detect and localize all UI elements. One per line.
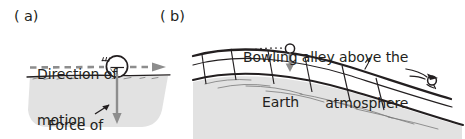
bowling-alley-label: Bowling alley above the atmosphere <box>243 20 408 139</box>
physics-figure-bowling-alley: ( a) ( b) Direction of motion Force of g… <box>0 0 465 139</box>
direction-of-motion-label-line1: Direction of <box>37 67 117 82</box>
panel-label-b: ( b) <box>160 9 185 25</box>
bowling-alley-label-line1: Bowling alley above the <box>243 50 408 65</box>
force-of-gravity-label-line1: Force of <box>48 118 103 133</box>
force-of-gravity-label: Force of gravity <box>48 88 103 139</box>
direction-arrowhead <box>152 63 166 72</box>
panel-label-a: ( a) <box>14 9 38 25</box>
earth-label: Earth <box>262 95 299 110</box>
